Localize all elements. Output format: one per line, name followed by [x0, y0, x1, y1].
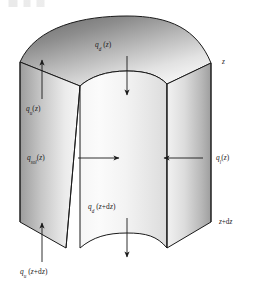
label-flux-down-top: qd (z): [95, 41, 111, 51]
edge-marker-bottom-suffix: z: [229, 218, 232, 226]
figure-root: qd (z) qu(z) qsol(z) ql(z) qd (z+dz) qu …: [0, 0, 265, 288]
subscript-u: u: [24, 273, 27, 279]
paren-close: ): [45, 267, 48, 276]
label-flux-lateral-right: ql(z): [216, 154, 229, 164]
paren-close: ): [42, 153, 45, 162]
subscript-sol: sol: [31, 159, 37, 165]
label-flux-source-mid: qsol(z): [27, 154, 45, 164]
edge-marker-bottom: z+dz: [219, 219, 232, 226]
paren-close: ): [113, 202, 116, 211]
paren-close: ): [109, 40, 112, 49]
inner-concave-face: [80, 71, 167, 248]
paren-close: ): [227, 153, 230, 162]
subscript-u: u: [30, 110, 33, 116]
subscript-d: d: [99, 46, 102, 52]
edge-marker-top: z: [222, 59, 225, 66]
right-side-face: [167, 63, 211, 248]
annular-sector-diagram: [0, 0, 265, 288]
label-flux-down-bottom: qd (z+dz): [88, 203, 115, 213]
operator-plus: +d: [34, 267, 42, 276]
paren-close: ): [38, 104, 41, 113]
operator-plus: +d: [102, 202, 110, 211]
label-flux-up-bottom: qu (z+dz): [20, 268, 47, 278]
subscript-d: d: [92, 208, 95, 214]
label-flux-up-left: qu(z): [26, 105, 40, 115]
